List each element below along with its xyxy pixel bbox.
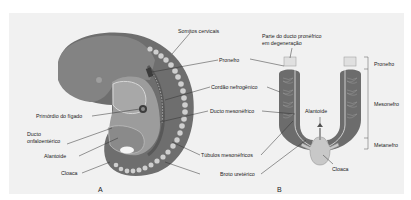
label-ducto: Ducto: [27, 131, 41, 137]
label-broto-ureterico: Broto uretérico: [220, 171, 255, 177]
label-alantoide-a: Alantoide: [44, 153, 66, 159]
label-metanefro: Metanefro: [374, 142, 398, 148]
embryo-illustration: [58, 32, 194, 176]
label-parte-ducto-pronefrico: Parte do ducto pronéfrico: [262, 33, 321, 39]
label-cloaca-a: Cloaca: [61, 170, 78, 176]
label-alantoide-b: Alantoide: [305, 108, 327, 114]
label-em-degeneracao: em degeneração: [262, 40, 302, 46]
label-mesonefro: Mesonefro: [374, 101, 399, 107]
label-cordao-nefrogenico: Cordão nefrogênico: [211, 84, 258, 90]
panel-letter-a: A: [98, 186, 103, 193]
label-onfaloenterico: onfaloentérico: [27, 138, 60, 144]
label-primordio-figado: Primórdio do fígado: [36, 113, 82, 119]
label-pronefro-b: Pronefro: [374, 61, 394, 67]
label-cloaca-b: Cloaca: [332, 166, 349, 172]
label-pronefro-a: Pronefro: [219, 57, 239, 63]
embryo-kidney-development-figure: Somitos cervicais Pronefro Cordão nefrog…: [0, 0, 411, 200]
label-tubulos-mesonefricos: Túbulos mesonéfricos: [201, 152, 253, 158]
label-ducto-mesonefrico: Ducto mesonéfrico: [210, 108, 254, 114]
panel-letter-b: B: [277, 186, 282, 193]
label-somitos-cervicais: Somitos cervicais: [178, 28, 219, 34]
